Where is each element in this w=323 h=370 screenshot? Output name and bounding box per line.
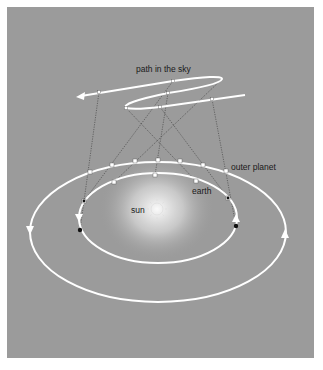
- earth-dark-marker-right: [234, 224, 238, 228]
- earth-dark-marker-upper-right: [227, 197, 230, 200]
- earth-dark-marker-upper-left: [83, 200, 86, 203]
- label-path-in-the-sky: path in the sky: [136, 64, 192, 74]
- earth-dark-marker-left: [78, 228, 82, 232]
- label-outer-planet: outer planet: [231, 162, 277, 172]
- label-sun: sun: [131, 205, 145, 215]
- label-earth: earth: [192, 186, 212, 196]
- retrograde-motion-diagram: path in the sky outer planet earth sun: [0, 0, 323, 370]
